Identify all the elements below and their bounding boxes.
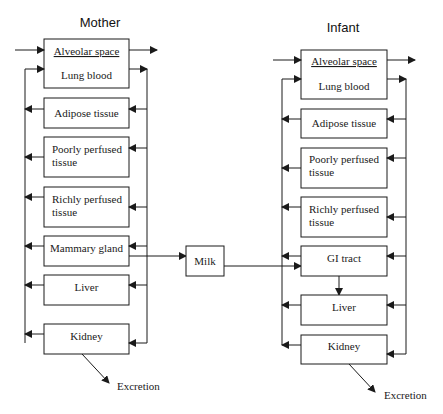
mother-liver-label: Liver <box>75 281 99 293</box>
infant-richly-perfused-compartment: Richly perfused tissue <box>282 197 406 237</box>
mother-kidney-label: Kidney <box>70 330 103 342</box>
milk-compartment: Milk <box>186 246 301 276</box>
mother-model: Mother Alveolar space Lung blood Adipose… <box>15 15 186 392</box>
infant-adipose-label: Adipose tissue <box>312 117 377 129</box>
mother-excretion-arrow-icon <box>82 354 109 383</box>
mother-mammary-label: Mammary gland <box>50 242 124 254</box>
mother-richly-perfused-compartment: Richly perfused tissue <box>25 187 147 227</box>
mother-liver-compartment: Liver <box>25 275 147 305</box>
infant-title: Infant <box>327 20 360 35</box>
infant-excretion-arrow-icon <box>349 364 375 392</box>
mother-lung-blood-label: Lung blood <box>61 69 113 81</box>
infant-lung-blood-label: Lung blood <box>318 80 370 92</box>
infant-excretion-label: Excretion <box>384 389 427 401</box>
infant-gi-tract-compartment: GI tract <box>282 246 406 295</box>
mother-richly-label-1: Richly perfused <box>52 193 122 205</box>
mother-poorly-perfused-compartment: Poorly perfused tissue <box>25 137 147 177</box>
infant-liver-compartment: Liver <box>282 295 406 325</box>
infant-kidney-label: Kidney <box>328 340 361 352</box>
infant-lung-compartment: Alveolar space Lung blood <box>273 50 415 99</box>
mother-adipose-compartment: Adipose tissue <box>25 98 147 128</box>
infant-poorly-label-1: Poorly perfused <box>309 153 379 165</box>
infant-kidney-compartment: Kidney Excretion <box>282 335 427 401</box>
mother-title: Mother <box>80 15 121 30</box>
mother-lung-compartment: Alveolar space Lung blood <box>15 39 157 88</box>
milk-label: Milk <box>194 255 216 267</box>
mother-excretion-label: Excretion <box>117 380 160 392</box>
infant-poorly-perfused-compartment: Poorly perfused tissue <box>282 148 406 188</box>
mother-poorly-label-1: Poorly perfused <box>52 143 122 155</box>
pbpk-lactation-diagram: Mother Alveolar space Lung blood Adipose… <box>0 0 443 414</box>
mother-poorly-label-2: tissue <box>52 156 77 168</box>
infant-gi-label: GI tract <box>327 252 361 264</box>
infant-adipose-compartment: Adipose tissue <box>282 109 406 138</box>
infant-poorly-label-2: tissue <box>309 166 334 178</box>
infant-liver-label: Liver <box>332 301 356 313</box>
mother-kidney-compartment: Kidney Excretion <box>25 324 160 392</box>
mother-mammary-compartment: Mammary gland <box>25 236 186 266</box>
infant-richly-label-2: tissue <box>309 216 334 228</box>
infant-richly-label-1: Richly perfused <box>309 203 379 215</box>
mother-alveolar-label: Alveolar space <box>54 45 120 57</box>
mother-richly-label-2: tissue <box>52 206 77 218</box>
mother-adipose-label: Adipose tissue <box>54 107 119 119</box>
infant-alveolar-label: Alveolar space <box>311 55 377 67</box>
infant-model: Infant Alveolar space Lung blood Adipose… <box>273 20 427 401</box>
